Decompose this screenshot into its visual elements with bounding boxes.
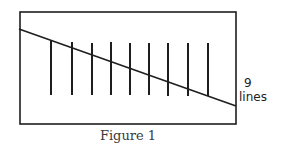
- annotation-word: lines: [239, 90, 267, 104]
- annotation-count: 9: [244, 76, 252, 90]
- figure-caption: Figure 1: [0, 128, 256, 143]
